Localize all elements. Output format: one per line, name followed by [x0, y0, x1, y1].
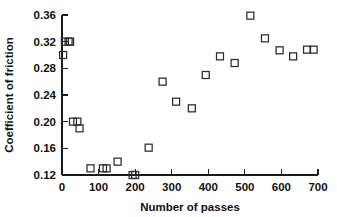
data-point-marker — [231, 60, 238, 67]
x-tick-label: 600 — [272, 181, 291, 193]
data-point-marker — [87, 165, 94, 172]
y-tick-label: 0.16 — [34, 142, 56, 154]
y-tick-label: 0.24 — [34, 89, 57, 101]
y-axis-title: Coefficient of friction — [3, 37, 15, 153]
data-point-marker — [261, 35, 268, 42]
data-point-marker — [76, 125, 83, 132]
chart-canvas: 0.120.160.200.240.280.320.36 01002003004… — [0, 0, 337, 217]
y-axis-tick-labels: 0.120.160.200.240.280.320.36 — [34, 9, 57, 181]
data-point-marker — [247, 12, 254, 19]
x-tick-label: 700 — [308, 181, 327, 193]
data-point-marker — [290, 53, 297, 60]
x-tick-label: 0 — [59, 181, 65, 193]
data-point-marker — [69, 118, 76, 125]
x-tick-label: 200 — [126, 181, 145, 193]
x-tick-label: 300 — [162, 181, 181, 193]
y-tick-label: 0.36 — [34, 9, 56, 21]
y-tick-label: 0.32 — [34, 36, 56, 48]
data-point-marker — [202, 72, 209, 79]
x-tick-label: 500 — [235, 181, 254, 193]
x-axis-title: Number of passes — [140, 201, 240, 213]
x-axis-tick-labels: 0100200300400500600700 — [59, 181, 328, 193]
data-point-marker — [188, 105, 195, 112]
data-point-marker — [310, 46, 317, 53]
data-point-marker — [145, 144, 152, 151]
data-point-marker — [304, 46, 311, 53]
data-points — [60, 12, 318, 178]
data-point-marker — [60, 52, 67, 59]
data-point-marker — [74, 118, 81, 125]
data-point-marker — [216, 53, 223, 60]
data-point-marker — [173, 98, 180, 105]
data-point-marker — [276, 47, 283, 54]
scatter-chart: 0.120.160.200.240.280.320.36 01002003004… — [0, 0, 337, 217]
x-tick-label: 100 — [89, 181, 108, 193]
y-tick-label: 0.20 — [34, 116, 56, 128]
y-tick-label: 0.12 — [34, 169, 56, 181]
data-point-marker — [159, 78, 166, 85]
x-tick-label: 400 — [199, 181, 218, 193]
data-point-marker — [114, 158, 121, 165]
y-tick-label: 0.28 — [34, 62, 57, 74]
